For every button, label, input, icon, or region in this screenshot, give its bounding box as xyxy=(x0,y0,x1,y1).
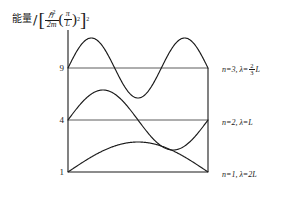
pi-over-L-fraction: π L xyxy=(64,10,72,28)
state-label-n1-quantum-number: n=1, xyxy=(222,170,237,179)
hbar-squared-over-2m-fraction: ℏ2 2m xyxy=(45,9,59,29)
state-label-n3-tail: L xyxy=(256,65,260,74)
state-label-n1: n=1, λ= 2L xyxy=(222,170,257,179)
state-label-n3-lambda: λ= xyxy=(239,65,248,74)
y-axis-label: 能量 / [ ℏ2 2m ( π L ) 2 ] 2 xyxy=(12,9,89,29)
wavefunction-curve-n1 xyxy=(68,142,208,172)
y-axis-label-text: 能量 xyxy=(12,14,32,24)
bracket-exponent: 2 xyxy=(86,16,89,22)
state-label-n2: n=2, λ= L xyxy=(222,118,253,127)
y-tick-label-4: 4 xyxy=(52,115,64,125)
state-label-n2-tail: L xyxy=(248,118,252,127)
pi-numerator: π xyxy=(64,10,72,18)
fraction-denominator: 2m xyxy=(45,20,59,29)
state-label-n1-tail: 2L xyxy=(248,170,256,179)
L-denominator: L xyxy=(64,19,72,28)
fraction-numerator: ℏ2 xyxy=(46,9,58,20)
state-label-n3-quantum-number: n=3, xyxy=(222,65,237,74)
state-label-n2-quantum-number: n=2, xyxy=(222,118,237,127)
y-tick-label-1: 1 xyxy=(52,167,64,177)
state-label-n3: n=3, λ= 2 3 L xyxy=(222,63,260,78)
state-label-n1-lambda: λ= xyxy=(239,170,248,179)
y-tick-label-9: 9 xyxy=(52,63,64,73)
state-label-n2-lambda: λ= xyxy=(239,118,248,127)
state-label-n3-fraction: 2 3 xyxy=(249,63,254,78)
pi-over-L-group: ( π L ) 2 xyxy=(59,10,80,28)
